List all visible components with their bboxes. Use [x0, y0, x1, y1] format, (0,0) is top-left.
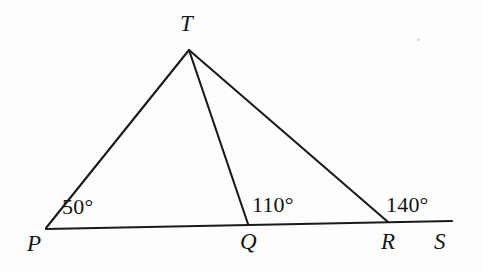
vertex-label-P: P: [27, 232, 41, 255]
angle-label-at-R: 140°: [386, 194, 429, 216]
scan-artifact-speck: [417, 38, 420, 41]
vertex-label-T: T: [180, 12, 193, 35]
vertex-label-R: R: [381, 230, 395, 253]
geometry-figure: P Q R S T 50° 110° 140°: [0, 0, 483, 272]
angle-label-at-Q: 110°: [252, 194, 294, 216]
angle-label-at-P: 50°: [62, 196, 93, 218]
vertex-label-S: S: [434, 230, 446, 253]
base-line-PS: [46, 221, 452, 229]
vertex-label-Q: Q: [240, 230, 257, 253]
